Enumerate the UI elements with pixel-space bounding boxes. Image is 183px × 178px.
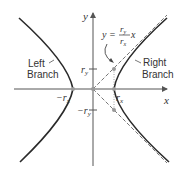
vertex-left-point xyxy=(71,87,75,91)
equation-pointer-arrowhead xyxy=(109,58,114,63)
y-axis-label: y xyxy=(82,10,88,22)
left-branch-leader xyxy=(49,60,54,63)
left-branch-label-line2: Branch xyxy=(27,69,59,80)
svg-text:y =: y = xyxy=(101,29,116,40)
right-branch-label-line1: Right xyxy=(143,57,167,68)
asymptote-equation: y = ry rx x xyxy=(101,24,136,47)
right-branch-label-line2: Branch xyxy=(142,69,174,80)
r-x-label: rx xyxy=(116,92,124,105)
r-y-label: ry xyxy=(81,64,89,77)
left-branch-label-line1: Left xyxy=(28,58,45,69)
origin-point xyxy=(91,87,95,91)
x-axis-label: x xyxy=(163,94,169,106)
svg-text:ry: ry xyxy=(120,24,127,35)
svg-text:x: x xyxy=(130,29,136,40)
point-rx-ry xyxy=(112,67,116,71)
point-rx-neg-ry xyxy=(112,108,116,112)
svg-text:rx: rx xyxy=(120,36,127,47)
neg-r-x-label: −rx xyxy=(56,92,71,105)
hyperbola-diagram: y x ry −ry rx −rx Left Branch Right Bran… xyxy=(0,0,183,178)
right-branch-leader xyxy=(135,60,141,63)
vertex-right-point xyxy=(112,87,116,91)
neg-r-y-label: −ry xyxy=(77,105,92,118)
asymptote-negative xyxy=(93,89,167,163)
left-branch-curve xyxy=(19,18,73,162)
